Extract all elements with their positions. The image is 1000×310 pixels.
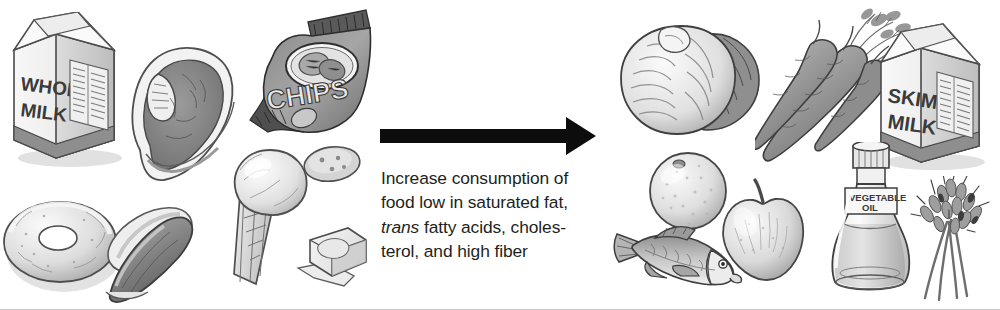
- butter-pat-icon: [292, 218, 372, 294]
- nutrition-panel: [70, 60, 108, 130]
- chips-bag-icon: CHIPS: [248, 6, 374, 148]
- caption-line-3-rest: fatty acids, choles-: [419, 217, 566, 237]
- hot-dog-icon: [92, 196, 218, 304]
- recommendation-caption: Increase consumption of food low in satu…: [381, 166, 613, 264]
- caption-line-1: Increase consumption of: [381, 166, 613, 190]
- wheat-stalks-icon: [905, 176, 999, 302]
- caption-line-2: food low in saturated fat,: [381, 190, 613, 214]
- caption-line-3: trans fatty acids, choles-: [381, 215, 613, 239]
- healthy-food-group-label: low saturated fat and high fiber foods: [605, 0, 606, 1]
- unhealthy-food-group: high saturated fat and cholesterol foods: [0, 0, 372, 310]
- fish-icon: [611, 218, 751, 298]
- oil-label-line2: OIL: [862, 202, 878, 213]
- cabbage-icon: [613, 14, 765, 146]
- caption-line-4: terol, and high fiber: [381, 239, 613, 263]
- whole-milk-carton-icon: WHOLE MILK: [4, 12, 124, 170]
- rightward-arrow: [376, 115, 600, 157]
- caption-emphasis-trans: trans: [381, 217, 419, 237]
- healthy-food-group: low saturated fat and high fiber foods: [605, 0, 1000, 310]
- dietary-recommendation-figure: high saturated fat and cholesterol foods: [0, 0, 1000, 310]
- cookie-icon: [300, 140, 364, 186]
- unhealthy-food-group-label: high saturated fat and cholesterol foods: [0, 0, 1, 1]
- nutrition-panel: [937, 72, 973, 138]
